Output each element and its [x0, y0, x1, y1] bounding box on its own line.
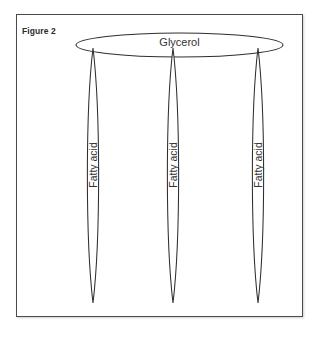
glycerol-label: Glycerol: [76, 36, 283, 48]
figure-caption-label: Figure 2: [22, 26, 56, 36]
fatty-acid-label-2: Fatty acid: [166, 105, 180, 225]
fatty-acid-label-3: Fatty acid: [251, 105, 265, 225]
fatty-acid-label-1: Fatty acid: [86, 105, 100, 225]
figure-diagram: Figure 2 Glycerol Fatty acid Fatty acid …: [0, 0, 320, 341]
